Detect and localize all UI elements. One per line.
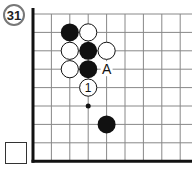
marker-A-label: A: [102, 61, 112, 77]
board-grid: [32, 8, 193, 163]
black-stone: [79, 42, 97, 60]
black-stone: [79, 60, 97, 78]
white-stone: [61, 42, 78, 59]
go-board: 1A: [0, 0, 195, 172]
black-stone: [98, 115, 116, 133]
small-point-marker: [86, 104, 91, 109]
white-stone: [61, 61, 78, 78]
white-stone: [98, 42, 115, 59]
white-stone: [80, 24, 97, 41]
answer-checkbox[interactable]: [5, 142, 27, 164]
move-number-label: 1: [85, 81, 92, 95]
black-stone: [61, 23, 79, 41]
